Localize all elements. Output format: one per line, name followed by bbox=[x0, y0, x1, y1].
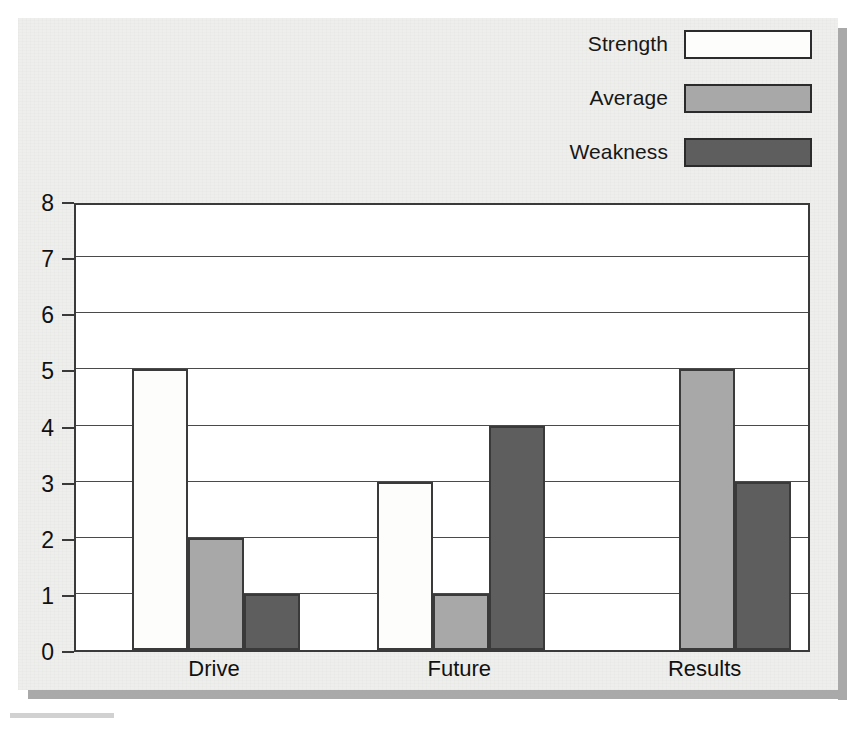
legend-label-average: Average bbox=[589, 86, 668, 110]
scan-rule-artifact bbox=[10, 713, 114, 718]
y-tick-label-5: 5 bbox=[41, 358, 54, 385]
y-tick-mark-2 bbox=[62, 539, 74, 541]
gridline-6 bbox=[76, 312, 808, 313]
y-tick-mark-3 bbox=[62, 483, 74, 485]
legend-swatch-weakness bbox=[684, 138, 812, 167]
x-tick-label-future: Future bbox=[428, 656, 492, 682]
y-tick-label-4: 4 bbox=[41, 414, 54, 441]
x-tick-label-results: Results bbox=[668, 656, 741, 682]
legend-swatch-average bbox=[684, 84, 812, 113]
bar-results-average bbox=[679, 369, 735, 650]
plot-area bbox=[74, 203, 810, 652]
chart-legend: Strength Average Weakness bbox=[540, 28, 812, 190]
y-tick-label-6: 6 bbox=[41, 302, 54, 329]
legend-label-strength: Strength bbox=[588, 32, 668, 56]
figure-root: Strength Average Weakness 012345678 Driv… bbox=[0, 0, 866, 730]
y-tick-label-0: 0 bbox=[41, 639, 54, 666]
legend-item-weakness: Weakness bbox=[540, 136, 812, 168]
gridline-7 bbox=[76, 256, 808, 257]
x-axis: DriveFutureResults bbox=[74, 656, 810, 696]
y-tick-mark-0 bbox=[62, 651, 74, 653]
figure-shadow-right bbox=[838, 28, 847, 700]
gridline-2 bbox=[76, 537, 808, 538]
bar-drive-average bbox=[188, 538, 244, 650]
legend-item-strength: Strength bbox=[540, 28, 812, 60]
y-tick-mark-1 bbox=[62, 595, 74, 597]
x-tick-label-drive: Drive bbox=[188, 656, 239, 682]
gridline-3 bbox=[76, 481, 808, 482]
y-tick-mark-8 bbox=[62, 202, 74, 204]
plot-wrapper bbox=[74, 203, 810, 652]
y-tick-mark-7 bbox=[62, 258, 74, 260]
gridline-4 bbox=[76, 425, 808, 426]
bar-future-average bbox=[433, 594, 489, 650]
y-tick-mark-5 bbox=[62, 370, 74, 372]
y-axis: 012345678 bbox=[0, 203, 74, 652]
y-tick-mark-4 bbox=[62, 427, 74, 429]
bar-future-strength bbox=[377, 482, 433, 650]
y-tick-label-7: 7 bbox=[41, 246, 54, 273]
bar-future-weakness bbox=[489, 426, 545, 651]
legend-swatch-strength bbox=[684, 30, 812, 59]
bar-drive-strength bbox=[132, 369, 188, 650]
bar-drive-weakness bbox=[244, 594, 300, 650]
y-tick-label-2: 2 bbox=[41, 526, 54, 553]
y-tick-label-8: 8 bbox=[41, 190, 54, 217]
legend-item-average: Average bbox=[540, 82, 812, 114]
y-tick-label-3: 3 bbox=[41, 470, 54, 497]
y-tick-label-1: 1 bbox=[41, 582, 54, 609]
gridline-5 bbox=[76, 368, 808, 369]
legend-label-weakness: Weakness bbox=[570, 140, 668, 164]
bars-layer bbox=[76, 205, 808, 650]
gridline-1 bbox=[76, 593, 808, 594]
bar-results-weakness bbox=[735, 482, 791, 650]
y-tick-mark-6 bbox=[62, 314, 74, 316]
